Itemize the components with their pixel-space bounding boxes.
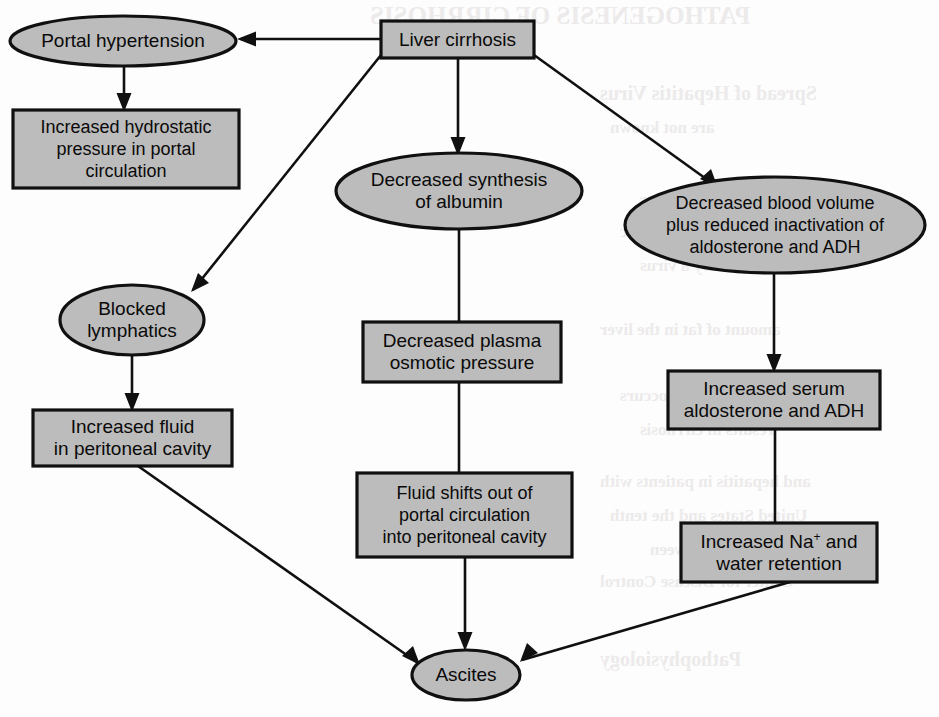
node-increased-na-water-retention[interactable]: Increased Na+ andwater retention — [681, 523, 877, 582]
edge-decreased-blood-volume-to-increased-serum-aldosterone — [767, 273, 782, 373]
node-decreased-synthesis-albumin[interactable]: Decreased synthesisof albumin — [336, 153, 582, 229]
node-increased-serum-aldosterone[interactable]: Increased serumaldosterone and ADH — [668, 371, 880, 429]
node-label: Decreased blood volumeplus reduced inact… — [666, 193, 885, 257]
flowchart-svg: Liver cirrhosisPortal hypertensionIncrea… — [0, 0, 939, 717]
node-label: Portal hypertension — [41, 30, 205, 51]
edge-blocked-lymphatics-to-increased-fluid-peritoneal — [125, 355, 140, 412]
node-blocked-lymphatics[interactable]: Blockedlymphatics — [60, 285, 204, 355]
node-portal-hypertension[interactable]: Portal hypertension — [10, 16, 236, 66]
arrowhead-icon — [458, 632, 473, 651]
diagram-canvas: PATHOGENESIS OF CIRRHOSISSpread of Hepat… — [0, 0, 939, 717]
node-ascites[interactable]: Ascites — [412, 650, 520, 700]
node-increased-hydrostatic-pressure[interactable]: Increased hydrostaticpressure in portalc… — [13, 110, 239, 188]
node-label: Fluid shifts out ofportal circulationint… — [382, 483, 546, 547]
node-label: Decreased plasmaosmotic pressure — [383, 330, 542, 373]
edge-liver-cirrhosis-to-decreased-blood-volume — [534, 55, 718, 188]
node-liver-cirrhosis[interactable]: Liver cirrhosis — [381, 21, 534, 58]
edge-portal-hypertension-to-increased-hydrostatic-pressure — [117, 66, 132, 112]
node-decreased-plasma-osmotic-pressure[interactable]: Decreased plasmaosmotic pressure — [363, 322, 561, 382]
edge-increased-na-water-retention-to-ascites — [520, 582, 790, 662]
node-label: Ascites — [435, 664, 496, 685]
arrowhead-icon — [237, 32, 256, 47]
node-fluid-shifts-out[interactable]: Fluid shifts out ofportal circulationint… — [357, 473, 572, 557]
edge-liver-cirrhosis-to-portal-hypertension — [237, 32, 381, 47]
node-layer: Liver cirrhosisPortal hypertensionIncrea… — [10, 16, 925, 700]
node-increased-fluid-peritoneal[interactable]: Increased fluidin peritoneal cavity — [33, 410, 232, 466]
node-label: Increased serumaldosterone and ADH — [684, 378, 865, 421]
edge-fluid-shifts-out-to-ascites — [458, 557, 473, 651]
edge-line — [534, 55, 716, 186]
arrowhead-icon — [191, 273, 209, 292]
edge-line — [522, 582, 790, 660]
node-decreased-blood-volume[interactable]: Decreased blood volumeplus reduced inact… — [625, 177, 925, 273]
node-label: Liver cirrhosis — [399, 29, 516, 50]
node-label: Increased fluidin peritoneal cavity — [54, 416, 212, 459]
edge-liver-cirrhosis-to-decreased-synthesis-albumin — [451, 58, 466, 156]
node-label: Blockedlymphatics — [87, 298, 177, 341]
